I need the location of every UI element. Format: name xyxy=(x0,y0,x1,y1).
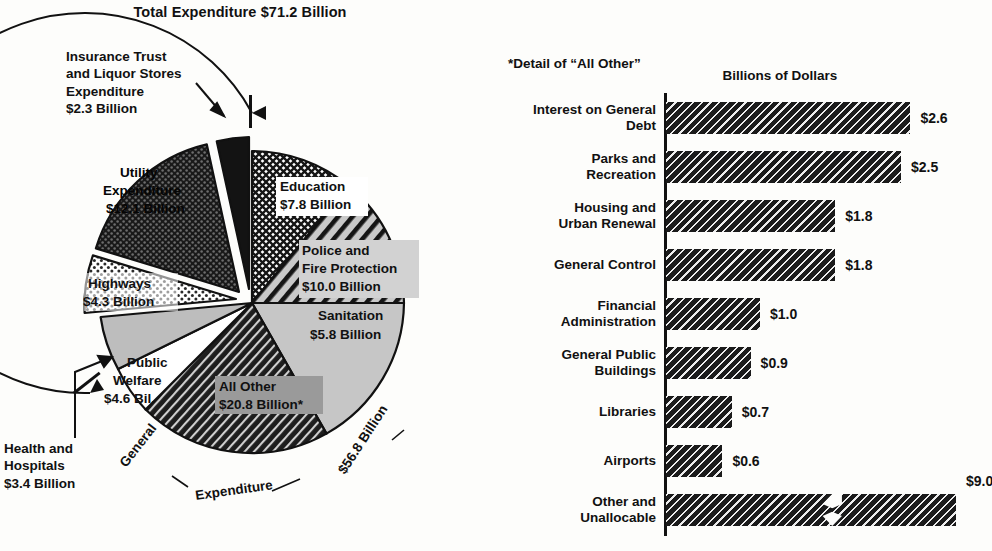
bar-label-line: Parks and xyxy=(500,151,656,167)
annotation-expenditure: Expenditure xyxy=(194,477,274,503)
pie-label-education: Education $7.8 Billion xyxy=(276,177,368,216)
bar-track xyxy=(666,298,760,330)
pie-label-highways-line2: $4.3 Billion xyxy=(83,294,154,309)
bar-value-label: $9.0 xyxy=(966,473,992,489)
bar-fill xyxy=(666,445,722,477)
bar-label-line: General Public xyxy=(500,347,656,363)
bar-value-label: $2.5 xyxy=(911,159,938,175)
pie-label-utility-line2: Expenditure xyxy=(103,183,182,198)
bar-track xyxy=(666,200,835,232)
bar-chart-axis-title: Billions of Dollars xyxy=(650,68,910,83)
bar-label-line: Recreation xyxy=(500,167,656,183)
bar-track xyxy=(666,151,901,183)
bar-row: General PublicBuildings$0.9 xyxy=(500,340,992,386)
bar-fill xyxy=(666,200,835,232)
bar-label: Parks andRecreation xyxy=(500,151,656,184)
bar-value-label: $1.8 xyxy=(845,257,872,273)
pie-label-police-line3: $10.0 Billion xyxy=(302,279,381,294)
bar-label: Interest on GeneralDebt xyxy=(500,102,656,135)
callout-insurance-trust: Insurance Trust and Liquor Stores Expend… xyxy=(66,48,182,117)
pie-chart-panel: Total Expenditure $71.2 Billion xyxy=(0,0,500,551)
pie-label-all-other-line2: $20.8 Billion* xyxy=(219,397,304,412)
bar-label: FinancialAdministration xyxy=(500,298,656,331)
bar-label-line: Unallocable xyxy=(500,510,656,526)
bar-value-label: $1.0 xyxy=(770,306,797,322)
bar-label-line: Administration xyxy=(500,314,656,330)
bar-label: General PublicBuildings xyxy=(500,347,656,380)
bar-fill xyxy=(666,151,901,183)
pie-label-education-line1: Education xyxy=(280,179,345,194)
bar-label-line: Other and xyxy=(500,494,656,510)
pie-label-welfare-line3: $4.6 Bil. xyxy=(104,391,155,406)
bar-label-line: Debt xyxy=(500,118,656,134)
bar-track xyxy=(666,249,835,281)
bar-track xyxy=(666,396,732,428)
bar-label: Other andUnallocable xyxy=(500,494,656,527)
bar-row: General Control$1.8 xyxy=(500,242,992,288)
bar-track xyxy=(666,445,722,477)
bar-value-label: $0.6 xyxy=(732,453,759,469)
bar-fill xyxy=(666,298,760,330)
callout-insurance-line4: $2.3 Billion xyxy=(66,100,182,117)
bar-value-label: $0.7 xyxy=(742,404,769,420)
bar-fill xyxy=(666,102,910,134)
pie-label-sanitation-line1: Sanitation xyxy=(318,308,383,323)
bar-row: FinancialAdministration$1.0 xyxy=(500,291,992,337)
bar-label-line: Airports xyxy=(500,453,656,469)
bar-label-line: General Control xyxy=(500,257,656,273)
bar-label: General Control xyxy=(500,257,656,273)
callout-health-line2: Hospitals xyxy=(4,457,75,474)
bar-fill xyxy=(666,347,751,379)
annotation-general: General xyxy=(117,421,160,470)
bar-fill xyxy=(666,249,835,281)
pie-label-police-line2: Fire Protection xyxy=(302,261,397,276)
bar-chart-footnote: *Detail of “All Other” xyxy=(508,56,641,71)
pie-label-utility-line1: Utility xyxy=(120,165,158,180)
callout-health-line1: Health and xyxy=(4,440,75,457)
bar-label-line: Libraries xyxy=(500,404,656,420)
pie-label-education-line2: $7.8 Billion xyxy=(280,197,351,212)
bar-label: Libraries xyxy=(500,404,656,420)
bar-label-line: Urban Renewal xyxy=(500,216,656,232)
bar-label: Housing andUrban Renewal xyxy=(500,200,656,233)
bar-label-line: Financial xyxy=(500,298,656,314)
bar-row: Other andUnallocable$9.0 xyxy=(500,487,992,533)
callout-health-and-hospitals: Health and Hospitals $3.4 Billion xyxy=(4,440,75,492)
pie-chart-title: Total Expenditure $71.2 Billion xyxy=(0,4,480,20)
bar-track xyxy=(666,347,751,379)
callout-insurance-line1: Insurance Trust xyxy=(66,48,182,65)
bar-value-label: $1.8 xyxy=(845,208,872,224)
bar-row: Housing andUrban Renewal$1.8 xyxy=(500,193,992,239)
bar-track xyxy=(666,494,956,526)
pie-label-highways-line1: Highways xyxy=(88,276,151,291)
pie-label-welfare-line2: Welfare xyxy=(113,373,162,388)
bar-row: Parks andRecreation$2.5 xyxy=(500,144,992,190)
pie-label-utility-line3: $12.1 Billion xyxy=(106,201,185,216)
callout-insurance-line3: Expenditure xyxy=(66,83,182,100)
bar-label-line: Interest on General xyxy=(500,102,656,118)
bar-track xyxy=(666,102,910,134)
callout-health-line3: $3.4 Billion xyxy=(4,475,75,492)
bar-row: Libraries$0.7 xyxy=(500,389,992,435)
pie-label-police-and-fire: Police and Fire Protection $10.0 Billion xyxy=(299,240,419,298)
pie-label-sanitation-line2: $5.8 Billion xyxy=(310,327,381,342)
bar-label: Airports xyxy=(500,453,656,469)
bar-row: Interest on GeneralDebt$2.6 xyxy=(500,95,992,141)
bar-fill-broken xyxy=(666,494,956,526)
pie-label-all-other-line1: All Other xyxy=(219,379,277,394)
pie-label-all-other: All Other $20.8 Billion* xyxy=(215,376,323,414)
pie-label-highways: Highways $4.3 Billion xyxy=(83,273,178,311)
callout-insurance-line2: and Liquor Stores xyxy=(66,65,182,82)
bar-label-line: Housing and xyxy=(500,200,656,216)
bar-value-label: $0.9 xyxy=(761,355,788,371)
pie-label-police-line1: Police and xyxy=(302,243,370,258)
bar-fill xyxy=(666,396,732,428)
bar-value-label: $2.6 xyxy=(920,110,947,126)
bar-row: Airports$0.6 xyxy=(500,438,992,484)
bar-chart-panel: *Detail of “All Other” Billions of Dolla… xyxy=(500,0,992,551)
bar-label-line: Buildings xyxy=(500,363,656,379)
pie-label-welfare-line1: Public xyxy=(127,355,168,370)
